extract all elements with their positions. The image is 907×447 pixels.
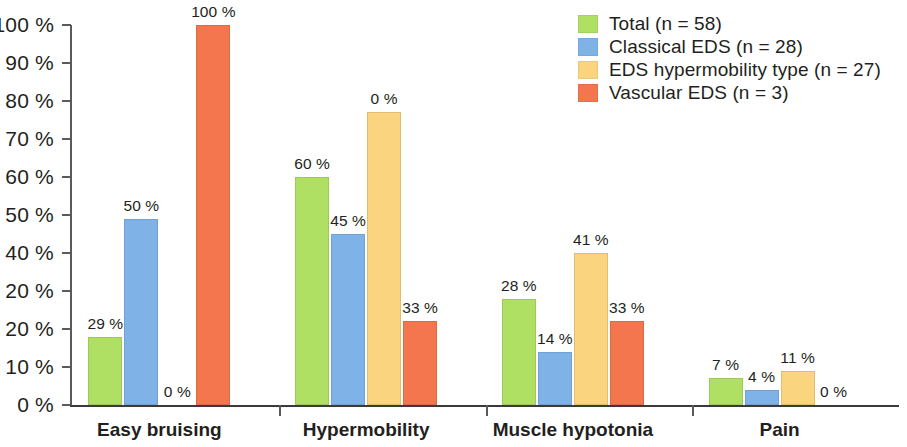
bar-value-label: 100 %	[191, 3, 235, 21]
y-axis-tick-label: 90 %	[5, 51, 54, 75]
legend-item: EDS hypermobility type (n = 27)	[578, 58, 881, 81]
x-axis-category-label: Easy bruising	[97, 419, 222, 441]
bar-value-label: 60 %	[294, 155, 330, 173]
x-axis-category-label: Pain	[760, 419, 800, 441]
y-axis-tick-mark	[62, 214, 71, 216]
legend-item: Classical EDS (n = 28)	[578, 35, 881, 58]
x-axis-category-label: Muscle hypotonia	[493, 419, 653, 441]
bar-chart: 100 %90 %80 %70 %60 %50 %40 %20 %20 %10 …	[0, 0, 907, 447]
bar-group: 29 %50 %0 %100 %	[88, 0, 230, 405]
bar-rect	[295, 177, 329, 405]
legend-item-label: Classical EDS (n = 28)	[609, 36, 803, 58]
bar-value-label: 11 %	[780, 349, 815, 367]
y-axis-tick-label: 40 %	[5, 241, 54, 265]
y-axis-tick-label: 100 %	[0, 13, 54, 37]
y-axis-tick-label: 0 %	[17, 393, 54, 417]
y-axis-tick-label: 80 %	[5, 89, 54, 113]
bar-value-label: 4 %	[748, 368, 775, 386]
bar-value-label: 41 %	[573, 231, 609, 249]
bar-rect	[196, 25, 230, 405]
x-axis-category-label: Hypermobility	[303, 419, 430, 441]
legend-item-label: Total (n = 58)	[609, 13, 722, 35]
bar-rect	[124, 219, 158, 405]
y-axis-tick-label: 60 %	[5, 165, 54, 189]
legend-item: Vascular EDS (n = 3)	[578, 81, 881, 104]
bar-rect	[502, 299, 536, 405]
legend-color-swatch	[578, 38, 598, 56]
bar-value-label: 33 %	[402, 299, 438, 317]
x-axis-separator-mark	[279, 405, 281, 416]
y-axis-tick-mark	[62, 100, 71, 102]
bar-value-label: 50 %	[124, 197, 160, 215]
y-axis-tick-mark	[62, 290, 71, 292]
bar-rect	[709, 378, 743, 405]
bar-value-label: 0 %	[371, 90, 398, 108]
bar-value-label: 29 %	[88, 315, 124, 333]
y-axis-tick-mark	[62, 24, 71, 26]
bar-value-label: 14 %	[537, 330, 573, 348]
bar-value-label: 33 %	[609, 299, 645, 317]
bar-rect	[745, 390, 779, 405]
bar-rect	[403, 321, 437, 405]
legend-item-label: Vascular EDS (n = 3)	[609, 82, 789, 104]
x-axis-line	[70, 405, 899, 407]
bar-rect	[331, 234, 365, 405]
bar-value-label: 45 %	[330, 212, 366, 230]
y-axis-tick-label: 10 %	[5, 355, 54, 379]
legend-color-swatch	[578, 15, 598, 33]
bar-rect	[88, 337, 122, 405]
x-axis-separator-mark	[486, 405, 488, 416]
y-axis-tick-mark	[62, 176, 71, 178]
legend-color-swatch	[578, 84, 598, 102]
chart-legend: Total (n = 58)Classical EDS (n = 28)EDS …	[578, 12, 881, 104]
y-axis-tick-mark	[62, 328, 71, 330]
bar-rect	[781, 371, 815, 405]
y-axis-tick-mark	[62, 252, 71, 254]
bar-value-label: 28 %	[501, 277, 537, 295]
legend-color-swatch	[578, 61, 598, 79]
y-axis-tick-label: 70 %	[5, 127, 54, 151]
x-axis: Easy bruisingHypermobilityMuscle hypoton…	[72, 419, 899, 447]
y-axis: 100 %90 %80 %70 %60 %50 %40 %20 %20 %10 …	[0, 0, 62, 447]
y-axis-tick-mark	[62, 404, 71, 406]
bar-rect	[367, 112, 401, 405]
bar-value-label: 7 %	[712, 356, 739, 374]
x-axis-separator-mark	[692, 405, 694, 416]
bar-rect	[610, 321, 644, 405]
bar-rect	[538, 352, 572, 405]
y-axis-tick-label: 20 %	[5, 317, 54, 341]
legend-item-label: EDS hypermobility type (n = 27)	[609, 59, 881, 81]
y-axis-tick-label: 20 %	[5, 279, 54, 303]
y-axis-tick-label: 50 %	[5, 203, 54, 227]
bar-rect	[574, 253, 608, 405]
y-axis-tick-mark	[62, 138, 71, 140]
y-axis-tick-mark	[62, 62, 71, 64]
legend-item: Total (n = 58)	[578, 12, 881, 35]
bar-value-label: 0 %	[820, 383, 847, 401]
bar-group: 60 %45 %0 %33 %	[295, 0, 437, 405]
bar-value-label: 0 %	[164, 383, 191, 401]
y-axis-tick-mark	[62, 366, 71, 368]
